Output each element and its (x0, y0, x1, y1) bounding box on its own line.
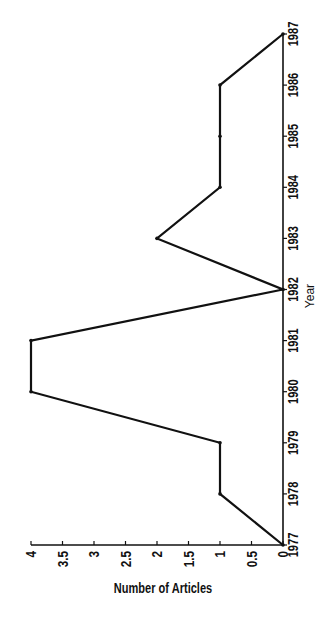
count-tick-label: 3 (86, 551, 102, 558)
year-axis-ticks: 1977197819791980198119821983198419851986… (283, 22, 301, 558)
data-point (218, 186, 222, 190)
count-tick-label: 4 (23, 550, 39, 557)
year-tick-label: 1985 (284, 124, 301, 149)
line-chart: 1977197819791980198119821983198419851986… (0, 0, 334, 623)
data-markers (29, 32, 285, 547)
count-tick-label: 1 (212, 551, 228, 558)
year-tick-label: 1982 (284, 277, 301, 302)
year-tick-label: 1979 (284, 431, 301, 456)
year-tick-label: 1986 (284, 73, 301, 98)
data-line (31, 34, 283, 545)
year-tick-label: 1981 (284, 328, 301, 353)
count-tick-label: 1.5 (180, 551, 196, 567)
data-point (29, 390, 33, 394)
count-tick-label: 0.5 (243, 551, 259, 567)
data-point (218, 134, 222, 138)
year-tick-label: 1984 (284, 174, 301, 199)
year-tick-label: 1983 (284, 226, 301, 251)
chart-axes (31, 34, 283, 545)
count-tick-label: 2.5 (117, 551, 133, 567)
year-tick-label: 1987 (284, 22, 301, 47)
year-tick-label: 1980 (284, 379, 301, 404)
count-tick-label: 3.5 (54, 551, 70, 567)
count-tick-label: 0 (275, 551, 291, 558)
data-point (218, 441, 222, 445)
y-axis-title: Number of Articles (114, 580, 212, 597)
data-point (218, 83, 222, 87)
x-axis-title: Year (303, 284, 317, 308)
year-tick-label: 1978 (284, 482, 301, 507)
data-point (218, 492, 222, 496)
data-point (29, 339, 33, 343)
count-tick-label: 2 (149, 551, 165, 558)
data-point (155, 237, 159, 241)
